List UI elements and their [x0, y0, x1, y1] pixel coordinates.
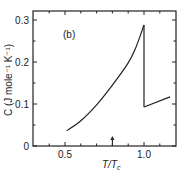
y-tick-label: 0.3	[15, 15, 29, 26]
x-axis-label-main: T/T	[102, 159, 118, 170]
series-line	[144, 97, 170, 107]
data-series	[67, 25, 170, 131]
x-tick-label: 1.0	[137, 149, 151, 160]
y-axis-label: C (J mole⁻¹ K⁻¹)	[3, 44, 14, 116]
series-line	[67, 25, 144, 131]
plot-border	[33, 11, 176, 146]
x-axis-label-sub: c	[117, 164, 121, 171]
arrow-head-icon	[110, 136, 114, 140]
y-tick-label: 0	[23, 141, 29, 152]
y-tick-label: 0.2	[15, 57, 29, 68]
axis-ticks: 00.10.20.30.51.0	[15, 11, 176, 160]
x-axis-label: T/Tc	[102, 159, 121, 171]
panel-label: (b)	[63, 29, 75, 40]
plot-frame	[33, 11, 176, 146]
y-tick-label: 0.1	[15, 99, 29, 110]
specific-heat-chart: 00.10.20.30.51.0 (b) C (J mole⁻¹ K⁻¹) T/…	[0, 0, 185, 174]
x-tick-label: 0.5	[58, 149, 72, 160]
